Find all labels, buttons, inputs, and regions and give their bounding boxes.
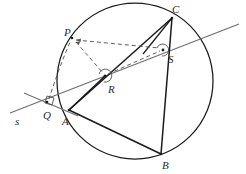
point-dot-c — [171, 17, 174, 20]
label-point-q: Q — [43, 110, 51, 121]
segment-a-r — [69, 76, 105, 110]
circumcircle — [57, 3, 213, 159]
arrowhead-to-p-from-s — [76, 39, 81, 42]
line-s — [10, 24, 239, 113]
label-point-b: B — [162, 160, 169, 171]
label-point-c: C — [172, 4, 179, 15]
dashed-segment-r-s — [108, 51, 160, 74]
point-dot-s — [162, 49, 165, 52]
diagram-canvas — [0, 0, 246, 174]
label-point-r: R — [108, 84, 115, 95]
label-line-s: s — [15, 116, 19, 127]
segment-c-spur — [143, 18, 172, 54]
dashed-segment-p-r — [76, 42, 103, 73]
segment-ab — [69, 110, 161, 154]
point-dot-a — [68, 109, 71, 112]
segment-bc — [161, 18, 172, 154]
point-dot-b — [160, 153, 163, 156]
geometry-diagram: P C S R Q A B s — [0, 0, 246, 174]
point-dot-p — [71, 37, 74, 40]
point-dot-r — [104, 75, 107, 78]
label-point-p: P — [64, 27, 71, 38]
label-point-s: S — [168, 54, 174, 65]
label-point-a: A — [62, 116, 69, 127]
